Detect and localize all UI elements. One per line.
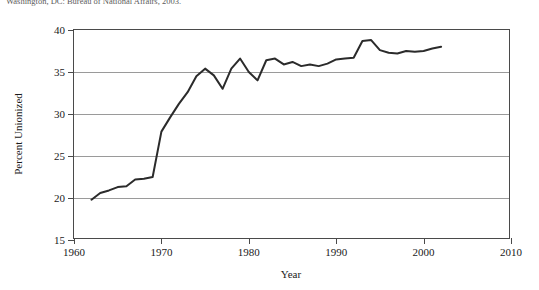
y-tick-label-35: 35	[54, 67, 65, 78]
gridline-y-30	[74, 114, 509, 115]
y-tick-label-40: 40	[54, 25, 65, 36]
x-tick-label-2010: 2010	[500, 247, 522, 258]
x-tick-label-1990: 1990	[325, 247, 347, 258]
gridline-y-35	[74, 72, 509, 73]
y-tick-30	[68, 114, 74, 115]
y-tick-label-15: 15	[54, 235, 65, 246]
x-tick-1960	[74, 238, 75, 244]
x-tick-1970	[161, 238, 162, 244]
x-axis-label: Year	[281, 268, 301, 280]
x-tick-label-2000: 2000	[413, 247, 435, 258]
y-tick-40	[68, 30, 74, 31]
y-tick-25	[68, 156, 74, 157]
y-tick-20	[68, 198, 74, 199]
y-tick-label-30: 30	[54, 109, 65, 120]
plot-area: 152025303540 196019701980199020002010	[73, 29, 510, 239]
x-tick-1990	[336, 238, 337, 244]
x-tick-label-1970: 1970	[150, 247, 172, 258]
x-tick-label-1980: 1980	[238, 247, 260, 258]
x-tick-label-1960: 1960	[63, 247, 85, 258]
y-tick-label-20: 20	[54, 193, 65, 204]
gridline-y-20	[74, 198, 509, 199]
x-tick-2000	[424, 238, 425, 244]
data-series-line	[74, 30, 511, 240]
x-tick-1980	[249, 238, 250, 244]
x-tick-2010	[511, 238, 512, 244]
chart-figure: Percent Unionized Year 152025303540 1960…	[0, 0, 539, 290]
y-axis-label: Percent Unionized	[12, 93, 24, 175]
y-tick-label-25: 25	[54, 151, 65, 162]
y-tick-35	[68, 72, 74, 73]
gridline-y-25	[74, 156, 509, 157]
